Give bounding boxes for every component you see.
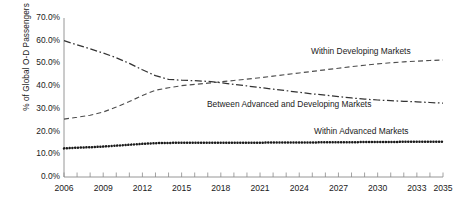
series-label-within-developing-markets: Within Developing Markets xyxy=(311,46,411,56)
series-line-2 xyxy=(64,142,443,149)
series-label-between-advanced-and-developing-markets: Between Advanced and Developing Markets xyxy=(207,99,371,109)
series-line-0 xyxy=(64,60,443,119)
x-axis-ticks xyxy=(64,173,443,178)
line-chart: % of Global O-D Passengers 70.0%60.0%50.… xyxy=(0,0,457,205)
series-label-within-advanced-markets: Within Advanced Markets xyxy=(314,126,409,136)
axis-lines xyxy=(64,18,443,177)
